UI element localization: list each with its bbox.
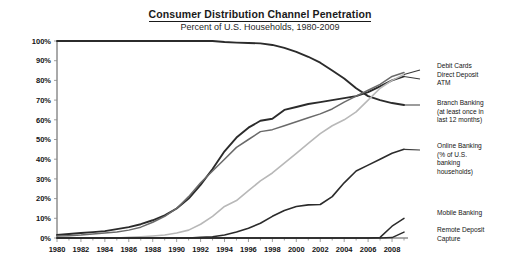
series-line-online-banking [57, 149, 404, 238]
y-axis-label: 70% [36, 96, 51, 105]
x-axis-label: 1982 [73, 245, 90, 254]
x-axis-label: 1984 [97, 245, 115, 254]
x-axis-label: 1998 [264, 245, 281, 254]
series-line-branch-banking [57, 41, 404, 105]
x-axis-label: 2004 [336, 245, 354, 254]
x-axis-label: 2000 [288, 245, 305, 254]
annotation-leader-0 [404, 70, 420, 74]
annotation-direct-deposit: Direct Deposit [437, 71, 479, 79]
x-axis-label: 2006 [360, 245, 377, 254]
y-axis-label: 10% [36, 214, 51, 223]
y-axis-label: 90% [36, 56, 51, 65]
y-axis-label: 100% [32, 37, 52, 46]
annotation-online-banking-2: (% of U.S. [437, 151, 467, 159]
annotation-branch-banking-1: Branch Banking [437, 99, 484, 107]
annotation-remote-deposit-1: Remote Deposit [437, 226, 484, 234]
y-axis-label: 30% [36, 175, 51, 184]
annotation-online-banking-4: households) [437, 168, 473, 176]
chart-axes [57, 41, 408, 238]
x-axis-label: 1994 [216, 245, 234, 254]
annotation-atm: ATM [437, 79, 450, 86]
x-axis-label: 1996 [240, 245, 257, 254]
chart-container: Consumer Distribution Channel Penetratio… [0, 0, 520, 268]
y-axis-label: 80% [36, 76, 51, 85]
y-axis-label: 50% [36, 135, 51, 144]
x-axis-label: 1990 [168, 245, 185, 254]
x-axis-label: 1992 [192, 245, 209, 254]
series-line-atm [57, 76, 404, 235]
annotation-online-banking-3: banking [437, 159, 460, 167]
chart-plot: 0%10%20%30%40%50%60%70%80%90%100%1980198… [0, 0, 520, 268]
annotation-leader-1 [404, 76, 420, 79]
annotation-branch-banking-2: (at least once in [437, 108, 484, 116]
x-axis-label: 1986 [120, 245, 137, 254]
annotation-mobile-banking: Mobile Banking [437, 209, 482, 217]
x-axis-label: 2008 [384, 245, 401, 254]
annotation-debit-cards: Debit Cards [437, 62, 473, 69]
y-axis-label: 0% [40, 234, 51, 243]
annotation-leader-3 [404, 149, 420, 150]
annotation-remote-deposit-2: Capture [437, 235, 461, 243]
series-line-mobile-banking [57, 218, 404, 238]
y-axis-label: 60% [36, 116, 51, 125]
annotation-branch-banking-3: last 12 months) [437, 116, 482, 124]
x-axis-label: 1980 [49, 245, 66, 254]
annotation-online-banking-1: Online Banking [437, 142, 482, 150]
x-axis-label: 2002 [312, 245, 329, 254]
x-axis-label: 1988 [144, 245, 161, 254]
y-axis-label: 40% [36, 155, 51, 164]
y-axis-label: 20% [36, 194, 51, 203]
